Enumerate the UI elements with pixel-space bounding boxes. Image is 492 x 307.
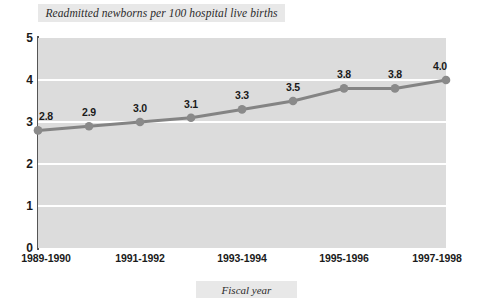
x-axis-title: Fiscal year	[196, 281, 297, 298]
data-point-marker	[85, 122, 94, 131]
y-tick-label: 3	[3, 116, 33, 128]
data-point-marker	[391, 84, 400, 93]
data-point-marker	[187, 114, 196, 123]
chart-title: Readmitted newborns per 100 hospital liv…	[38, 4, 285, 22]
x-tick-label: 1991-1992	[115, 252, 164, 264]
data-point-label: 4.0	[433, 60, 447, 72]
data-point-label: 2.9	[82, 106, 96, 118]
x-axis-labels: 1989-19901991-19921993-19941995-19961997…	[0, 252, 492, 268]
data-point-label: 3.8	[388, 68, 402, 80]
data-point-label: 3.0	[133, 102, 147, 114]
x-tick-label: 1993-1994	[217, 252, 266, 264]
data-point-label: 3.8	[337, 68, 351, 80]
plot-area: 2.82.93.03.13.33.53.83.84.0	[38, 38, 446, 248]
line-series	[38, 38, 446, 248]
y-tick-label: 2	[3, 158, 33, 170]
x-tick-label: 1989-1990	[21, 252, 70, 264]
data-point-marker	[289, 97, 298, 106]
y-tick-label: 5	[3, 32, 33, 44]
data-point-marker	[34, 126, 43, 135]
data-point-marker	[442, 76, 451, 85]
data-point-label: 2.8	[39, 110, 53, 122]
data-point-label: 3.3	[235, 89, 249, 101]
x-tick-label: 1995-1996	[319, 252, 368, 264]
data-point-marker	[340, 84, 349, 93]
y-tick-label: 1	[3, 200, 33, 212]
x-tick-label: 1997-1998	[412, 252, 461, 264]
data-point-marker	[136, 118, 145, 127]
data-point-label: 3.5	[286, 81, 300, 93]
data-point-label: 3.1	[184, 98, 198, 110]
data-point-marker	[238, 105, 247, 114]
y-tick-label: 4	[3, 74, 33, 86]
